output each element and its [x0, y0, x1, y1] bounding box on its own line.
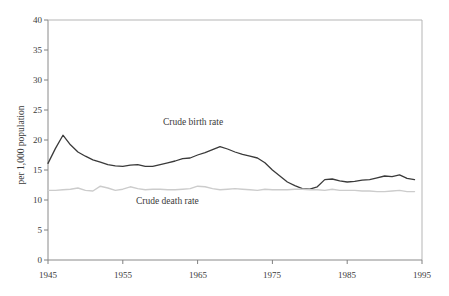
y-tick-label-10: 10 — [20, 195, 42, 205]
series-annotation-crude-birth-rate: Crude birth rate — [163, 117, 223, 127]
x-tick-label-1975: 1975 — [252, 270, 292, 280]
series-annotation-crude-death-rate: Crude death rate — [136, 196, 199, 206]
y-tick-label-40: 40 — [20, 15, 42, 25]
y-tick-label-35: 35 — [20, 45, 42, 55]
x-tick-label-1985: 1985 — [327, 270, 367, 280]
series-line-crude-birth-rate — [48, 135, 415, 189]
y-tick-label-5: 5 — [20, 225, 42, 235]
x-tick-label-1945: 1945 — [28, 270, 68, 280]
plot-frame — [48, 20, 422, 260]
y-tick-label-25: 25 — [20, 105, 42, 115]
x-tick-label-1965: 1965 — [178, 270, 218, 280]
x-tick-label-1955: 1955 — [103, 270, 143, 280]
data-series-group — [48, 135, 415, 191]
x-axis-tickmarks — [48, 260, 422, 264]
series-line-crude-death-rate — [48, 186, 415, 191]
y-axis-tickmarks — [44, 20, 48, 260]
chart-container: per 1,000 population 40 35 30 25 20 15 1… — [0, 0, 449, 296]
y-tick-label-0: 0 — [20, 255, 42, 265]
line-chart-plot — [0, 0, 449, 296]
y-tick-label-15: 15 — [20, 165, 42, 175]
y-tick-label-30: 30 — [20, 75, 42, 85]
x-tick-label-1995: 1995 — [402, 270, 442, 280]
y-tick-label-20: 20 — [20, 135, 42, 145]
y-axis-title: per 1,000 population — [16, 80, 26, 210]
